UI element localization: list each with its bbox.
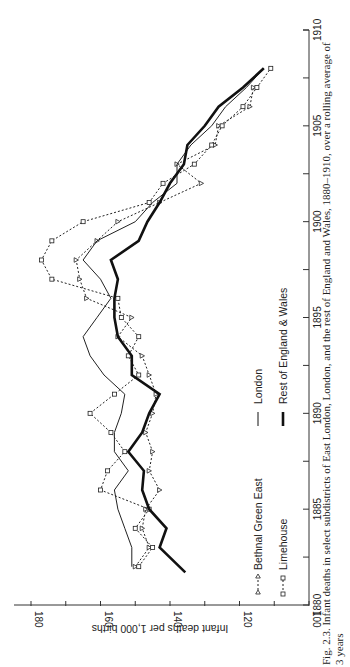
data-point-limehouse: [50, 239, 54, 243]
chart: 100120140160180Infant deaths per 1,000 b…: [0, 0, 350, 667]
data-point-limehouse: [151, 546, 155, 550]
series-rest-of-england-wales: [111, 68, 264, 572]
legend-label: London: [252, 369, 264, 404]
data-point-limehouse: [137, 565, 141, 569]
data-point-limehouse: [147, 201, 151, 205]
series-layer: [39, 66, 272, 572]
legend-label: Rest of England & Wales: [277, 288, 289, 404]
data-point-limehouse: [123, 450, 127, 454]
data-point-limehouse: [112, 392, 116, 396]
data-point-limehouse: [255, 86, 259, 90]
series-line-bethnal-green-east: [76, 88, 253, 567]
data-point-limehouse: [210, 143, 214, 147]
data-point-limehouse: [116, 296, 120, 300]
data-point-bethnal-green-east: [147, 469, 151, 474]
series-line-rest-of-england-wales: [111, 68, 264, 572]
data-point-bethnal-green-east: [140, 354, 144, 359]
legend-item-rest-of-england-wales: Rest of England & Wales: [277, 288, 289, 426]
data-point-limehouse: [99, 488, 103, 492]
legend-item-bethnal-green-east: Bethnal Green East: [252, 478, 264, 594]
legend-square-marker: [281, 576, 285, 580]
value-tick-label: 180: [33, 611, 44, 628]
data-point-bethnal-green-east: [151, 449, 155, 454]
data-point-limehouse: [50, 277, 54, 281]
value-tick-label: 120: [242, 611, 253, 628]
legend-label: Bethnal Green East: [252, 478, 264, 570]
caption-line-1: Fig. 2.3. Infant deaths in select subdis…: [320, 42, 332, 665]
data-point-limehouse: [81, 220, 85, 224]
data-point-limehouse: [137, 373, 141, 377]
data-point-limehouse: [109, 431, 113, 435]
data-point-bethnal-green-east: [116, 219, 120, 224]
legend-item-limehouse: Limehouse: [277, 518, 289, 596]
data-point-limehouse: [39, 258, 43, 262]
data-point-limehouse: [192, 162, 196, 166]
data-point-bethnal-green-east: [199, 181, 203, 186]
data-point-limehouse: [88, 411, 92, 415]
series-line-limehouse: [41, 68, 270, 566]
caption: Fig. 2.3. Infant deaths in select subdis…: [320, 42, 345, 665]
legend: Bethnal Green EastLimehouseLondonRest of…: [252, 288, 289, 596]
data-point-limehouse: [119, 316, 123, 320]
data-point-bethnal-green-east: [158, 488, 162, 493]
data-point-limehouse: [161, 181, 165, 185]
legend-square-marker: [281, 592, 285, 596]
data-point-bethnal-green-east: [147, 373, 151, 378]
data-point-limehouse: [137, 335, 141, 339]
data-point-bethnal-green-east: [85, 296, 89, 301]
data-point-limehouse: [220, 124, 224, 128]
caption-line-2: 3 years: [333, 634, 345, 665]
data-point-bethnal-green-east: [144, 430, 148, 435]
value-axis-title: Infant deaths per 1,000 births: [92, 623, 229, 635]
data-point-limehouse: [269, 66, 273, 70]
data-point-limehouse: [241, 105, 245, 109]
data-point-bethnal-green-east: [130, 315, 134, 320]
legend-triangle-marker: [256, 574, 261, 578]
series-limehouse: [39, 66, 272, 568]
series-london: [83, 68, 264, 566]
legend-triangle-marker: [256, 590, 261, 594]
data-point-limehouse: [105, 469, 109, 473]
legend-item-london: London: [252, 369, 264, 426]
year-tick-label: 1910: [312, 18, 323, 41]
data-point-bethnal-green-east: [74, 258, 78, 263]
series-bethnal-green-east: [74, 85, 256, 569]
data-point-limehouse: [133, 526, 137, 530]
series-line-london: [83, 68, 264, 566]
legend-label: Limehouse: [277, 518, 289, 570]
